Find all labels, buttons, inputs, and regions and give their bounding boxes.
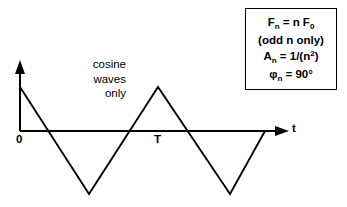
period-tick-label: T <box>154 134 161 146</box>
legend-line-amplitude: An = 1/(n2) <box>263 48 318 66</box>
y-axis-arrowhead <box>15 60 25 74</box>
legend-phi-subscript-n: n <box>277 74 282 83</box>
harmonics-legend-box: Fn = n F0 (odd n only) An = 1/(n2) φn = … <box>245 8 337 90</box>
legend-line-odd-n: (odd n only) <box>258 32 324 48</box>
legend-a-equals: = 1/(n <box>277 50 311 62</box>
x-axis-arrowhead <box>275 126 289 136</box>
legend-a-close-paren: ) <box>315 50 319 62</box>
legend-f-subscript-n: n <box>275 22 280 31</box>
legend-line-phase: φn = 90° <box>269 66 313 84</box>
legend-a-subscript-n: n <box>272 56 277 65</box>
inline-note-line-1: cosine <box>64 57 126 72</box>
inline-note-line-2: waves <box>64 72 126 87</box>
figure-root: cosine waves only 0 T t Fn = n F0 (odd n… <box>0 0 347 207</box>
legend-f0-subscript: 0 <box>310 22 314 31</box>
origin-tick-label: 0 <box>16 134 22 146</box>
triangle-waveform <box>20 87 265 194</box>
inline-note: cosine waves only <box>64 57 126 101</box>
legend-phi-value: = 90° <box>282 68 313 80</box>
inline-note-line-3: only <box>64 86 126 101</box>
legend-f-equals: = n F <box>280 16 310 28</box>
legend-a-symbol: A <box>263 50 271 62</box>
legend-line-frequency: Fn = n F0 <box>268 14 315 32</box>
x-axis-label: t <box>292 123 296 135</box>
legend-a-exponent: 2 <box>310 49 314 58</box>
legend-f-symbol: F <box>268 16 275 28</box>
